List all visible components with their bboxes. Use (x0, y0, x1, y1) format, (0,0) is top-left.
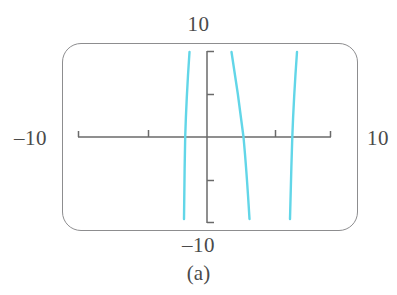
x-min-range-label: –10 (14, 128, 47, 149)
figure-container: 10 –10 10 –10 (a) (0, 0, 397, 295)
y-min-range-label: –10 (0, 235, 397, 256)
x-max-range-label: 10 (367, 128, 389, 149)
figure-caption: (a) (0, 263, 397, 284)
y-max-range-label: 10 (0, 14, 397, 35)
calculator-screen-bezel (62, 43, 358, 231)
